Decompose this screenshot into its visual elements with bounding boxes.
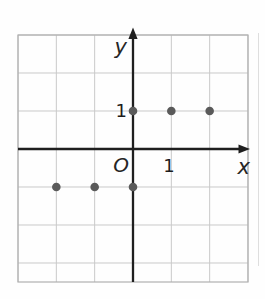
y-axis-arrow-icon xyxy=(128,28,137,40)
data-point xyxy=(129,183,138,192)
origin-label: O xyxy=(113,153,129,177)
data-point xyxy=(205,107,214,116)
data-point xyxy=(167,107,176,116)
x-tick-label-1: 1 xyxy=(163,155,174,176)
x-axis-label: x xyxy=(237,155,251,179)
data-point xyxy=(129,107,138,116)
y-tick-label-1: 1 xyxy=(116,100,127,121)
scatter-plot-svg: y x O 1 1 xyxy=(0,0,265,299)
data-point xyxy=(90,183,99,192)
coordinate-plane-figure: y x O 1 1 xyxy=(0,0,265,299)
y-axis-label: y xyxy=(114,35,128,59)
data-point xyxy=(52,183,61,192)
